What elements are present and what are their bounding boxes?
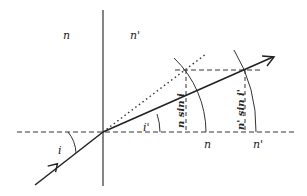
refraction-diagram: n n' i i' n n' n sin i n' sin i' <box>0 0 307 196</box>
angle-i-prime-label: i' <box>143 122 150 133</box>
incident-ray <box>35 132 103 185</box>
axis-n-prime-label: n' <box>253 139 263 150</box>
n-prime-sin-i-prime-label: n' sin i' <box>236 89 246 130</box>
medium-n-prime-label: n' <box>130 30 140 41</box>
angle-i-label: i <box>58 145 62 156</box>
medium-n-label: n <box>63 30 70 41</box>
refracted-ray <box>103 57 273 132</box>
axis-n-label: n <box>204 139 211 150</box>
angle-i-prime-arc <box>157 114 160 132</box>
n-sin-i-label: n sin i <box>176 93 186 128</box>
angle-i-arc <box>68 132 76 153</box>
diagram-canvas <box>0 0 307 196</box>
